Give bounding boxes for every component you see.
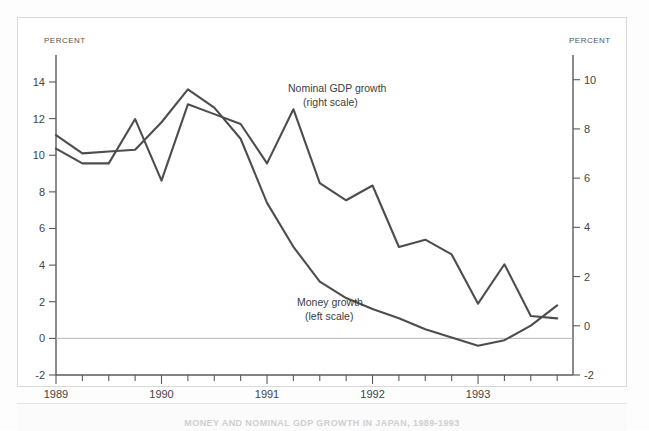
left-axis-tick-label: 14 xyxy=(33,76,45,88)
money-annotation-line1: Money growth xyxy=(297,296,363,308)
figure-caption: MONEY AND NOMINAL GDP GROWTH IN JAPAN, 1… xyxy=(17,418,627,428)
gdp-annotation: Nominal GDP growth (right scale) xyxy=(288,82,387,108)
money-annotation-line2: (left scale) xyxy=(305,310,353,322)
left-axis: 14121086420-2 xyxy=(33,55,56,381)
right-axis-tick-label: 8 xyxy=(584,123,590,135)
gdp-annotation-line2: (right scale) xyxy=(303,96,358,108)
left-axis-tick-label: 2 xyxy=(39,296,45,308)
left-axis-tick-label: 0 xyxy=(39,332,45,344)
gdp-annotation-line1: Nominal GDP growth xyxy=(288,82,387,94)
right-axis-tick-label: -2 xyxy=(584,369,594,381)
series-line-nominal-gdp-growth xyxy=(56,104,557,318)
right-axis-tick-label: 4 xyxy=(584,221,590,233)
left-axis-tick-label: 6 xyxy=(39,222,45,234)
right-axis-tick-label: 10 xyxy=(584,74,596,86)
left-axis-tick-label: 10 xyxy=(33,149,45,161)
x-axis: 19891990199119921993 xyxy=(44,375,573,400)
right-axis-tick-label: 2 xyxy=(584,271,590,283)
left-axis-tick-label: 4 xyxy=(39,259,45,271)
left-axis-tick-label: 8 xyxy=(39,186,45,198)
x-axis-year-label: 1991 xyxy=(255,388,279,400)
left-axis-tick-label: 12 xyxy=(33,113,45,125)
figure-caption-strip: MONEY AND NOMINAL GDP GROWTH IN JAPAN, 1… xyxy=(17,403,627,431)
right-axis-unit-label: PERCENT xyxy=(569,36,611,45)
left-axis-unit-label: PERCENT xyxy=(44,36,86,45)
x-axis-year-label: 1993 xyxy=(466,388,490,400)
left-axis-tick-label: -2 xyxy=(35,369,45,381)
money-annotation: Money growth (left scale) xyxy=(297,296,363,322)
x-axis-year-label: 1990 xyxy=(149,388,173,400)
x-axis-year-label: 1992 xyxy=(360,388,384,400)
right-axis-tick-label: 6 xyxy=(584,172,590,184)
right-axis-tick-label: 0 xyxy=(584,320,590,332)
x-axis-year-label: 1989 xyxy=(44,388,68,400)
right-axis: 1086420-2 xyxy=(573,55,596,381)
